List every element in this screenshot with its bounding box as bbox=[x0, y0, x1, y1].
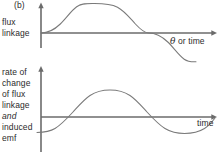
bottom-chart-y-axis-label-line3: of flux bbox=[2, 90, 25, 99]
top-chart-y-axis-arrow-icon bbox=[38, 3, 43, 9]
bottom-chart-y-axis-label-line2: change bbox=[2, 79, 31, 88]
bottom-chart-y-axis-label-line4: linkage bbox=[2, 101, 30, 110]
figure-plot-canvas bbox=[0, 0, 223, 156]
top-chart-y-axis-label-line1: flux bbox=[2, 18, 16, 27]
bottom-chart-y-axis-label-line7: emf bbox=[2, 134, 16, 143]
bottom-chart-y-axis-arrow-icon bbox=[38, 66, 43, 72]
bottom-chart-axes bbox=[38, 66, 217, 152]
bottom-chart-x-axis-label: time bbox=[197, 119, 213, 128]
bottom-chart-y-axis-label-line5: and bbox=[2, 112, 16, 121]
top-chart-y-axis-label-line2: linkage bbox=[2, 29, 30, 38]
top-chart-x-axis-label: θ or time bbox=[170, 37, 205, 46]
panel-label: (b) bbox=[14, 1, 25, 10]
bottom-chart-rate-of-change-curve bbox=[37, 90, 215, 134]
induced-emf-figure: (b) flux linkage θ or time rate of chang… bbox=[0, 0, 223, 156]
top-chart-x-axis-label-rest: or time bbox=[176, 36, 205, 46]
bottom-chart-y-axis-label-line1: rate of bbox=[2, 68, 27, 77]
top-chart-x-axis-arrow-icon bbox=[211, 30, 217, 35]
bottom-chart-y-axis-label-line6: induced bbox=[2, 123, 32, 132]
